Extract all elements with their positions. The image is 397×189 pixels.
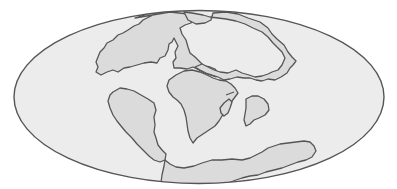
world-map-diagram [0, 0, 397, 189]
map-svg [0, 0, 397, 189]
